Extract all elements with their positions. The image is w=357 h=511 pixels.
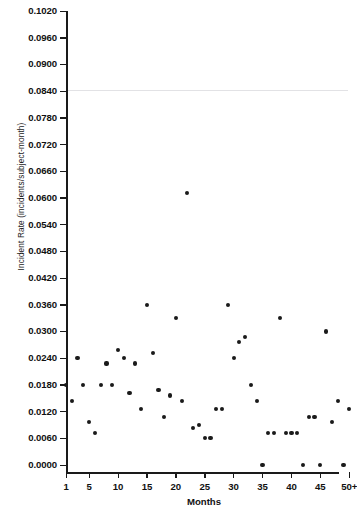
data-point [307, 415, 311, 419]
x-tick-mark [262, 472, 263, 478]
x-tick-mark [66, 472, 67, 478]
y-tick-label: 0.0600 [28, 192, 57, 203]
data-point [347, 407, 351, 411]
y-tick-label: 0.0420 [28, 272, 57, 283]
data-point [278, 316, 282, 320]
y-tick-label: 0.0840 [28, 85, 57, 96]
y-tick-mark [60, 251, 66, 252]
y-tick-mark [60, 438, 66, 439]
y-tick-mark [60, 358, 66, 359]
y-tick-mark [60, 117, 66, 118]
x-tick-label: 5 [86, 481, 91, 492]
y-tick-label: 0.0000 [28, 459, 57, 470]
data-point [110, 383, 114, 387]
data-point [168, 393, 172, 397]
x-tick-label: 10 [113, 481, 123, 492]
data-point [127, 391, 131, 395]
data-point [197, 423, 201, 427]
y-tick-mark [60, 37, 66, 38]
scan-artifact-line [67, 90, 348, 91]
y-axis-line [66, 11, 68, 473]
y-tick-mark [60, 278, 66, 279]
x-tick-mark [175, 472, 176, 478]
data-point [266, 431, 270, 435]
data-point [122, 356, 126, 360]
data-point [93, 431, 97, 435]
y-tick-label: 0.0240 [28, 352, 57, 363]
data-point [249, 383, 253, 387]
data-point [272, 431, 276, 435]
data-point [87, 420, 91, 424]
y-tick-label: 0.0060 [28, 432, 57, 443]
data-point [226, 303, 230, 307]
x-tick-label: 30 [228, 481, 238, 492]
x-tick-label: 1 [63, 481, 68, 492]
data-point [151, 351, 155, 355]
x-tick-mark [291, 472, 292, 478]
y-tick-mark [60, 465, 66, 466]
data-point [203, 436, 207, 440]
data-point [232, 356, 236, 360]
data-point [243, 335, 247, 339]
x-tick-mark [89, 472, 90, 478]
y-tick-label: 0.0900 [28, 58, 57, 69]
data-point [139, 407, 143, 411]
data-point [341, 463, 345, 467]
data-point [145, 303, 149, 307]
data-point [180, 399, 184, 403]
x-tick-mark [233, 472, 234, 478]
data-point [104, 361, 108, 365]
data-point [70, 399, 74, 403]
y-tick-mark [60, 224, 66, 225]
y-tick-label: 0.0120 [28, 406, 57, 417]
data-point [220, 407, 224, 411]
y-tick-mark [60, 197, 66, 198]
data-point [237, 340, 241, 344]
y-tick-label: 0.0180 [28, 379, 57, 390]
x-tick-mark [204, 472, 205, 478]
y-tick-label: 0.1020 [28, 5, 57, 16]
y-tick-mark [60, 11, 66, 12]
data-point [116, 348, 120, 352]
y-tick-mark [60, 304, 66, 305]
y-tick-mark [60, 144, 66, 145]
x-tick-label: 25 [199, 481, 209, 492]
data-point [260, 463, 264, 467]
data-point [295, 431, 299, 435]
data-point [99, 383, 103, 387]
x-axis-title: Months [0, 496, 348, 507]
y-tick-label: 0.0660 [28, 165, 57, 176]
x-tick-label: 50+ [341, 481, 357, 492]
data-point [336, 399, 340, 403]
x-axis-line [66, 472, 339, 474]
data-point [133, 361, 137, 365]
y-tick-mark [60, 411, 66, 412]
data-point [185, 191, 189, 195]
data-point [312, 415, 316, 419]
y-tick-mark [60, 171, 66, 172]
data-point [324, 329, 328, 333]
x-tick-label: 15 [142, 481, 152, 492]
data-point [301, 463, 305, 467]
x-tick-label: 40 [286, 481, 296, 492]
data-point [289, 431, 293, 435]
x-tick-mark [320, 472, 321, 478]
data-point [255, 399, 259, 403]
y-tick-label: 0.0300 [28, 325, 57, 336]
y-tick-label: 0.0960 [28, 32, 57, 43]
data-point [81, 383, 85, 387]
y-tick-label: 0.0480 [28, 245, 57, 256]
x-tick-mark [118, 472, 119, 478]
data-point [214, 407, 218, 411]
x-tick-mark [146, 472, 147, 478]
y-axis-title: Incident Rate (incidents/subject-month) [17, 82, 26, 312]
data-point [75, 356, 79, 360]
y-tick-mark [60, 384, 66, 385]
data-point [284, 431, 288, 435]
data-point [191, 426, 195, 430]
data-point [162, 415, 166, 419]
y-tick-label: 0.0780 [28, 112, 57, 123]
data-point [208, 436, 212, 440]
y-tick-mark [60, 64, 66, 65]
